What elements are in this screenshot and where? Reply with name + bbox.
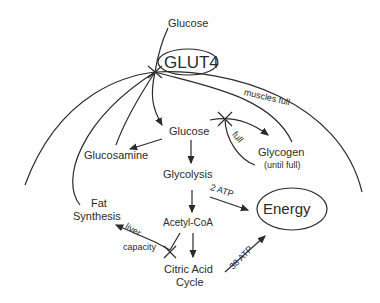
glucose-inside-label: Glucose xyxy=(169,126,209,137)
glucose-outside-label: Glucose xyxy=(168,18,208,29)
glycogen-note: (until full) xyxy=(264,161,301,170)
fat-label: Fat xyxy=(91,198,107,209)
cycle-label: Cycle xyxy=(176,277,204,288)
glycolysis-label: Glycolysis xyxy=(163,169,213,180)
glut4-label: GLUT4 xyxy=(164,54,219,71)
glycogen-label: Glycogen xyxy=(258,147,304,158)
synthesis-label: Synthesis xyxy=(73,211,121,222)
energy-label: Energy xyxy=(263,201,311,216)
citric-acid-label: Citric Acid xyxy=(164,264,213,275)
glucosamine-label: Glucosamine xyxy=(84,150,148,161)
pathway-connectors xyxy=(0,0,380,303)
capacity-label: capacity xyxy=(123,243,156,252)
acetyl-coa-label: Acetyl-CoA xyxy=(163,218,213,228)
